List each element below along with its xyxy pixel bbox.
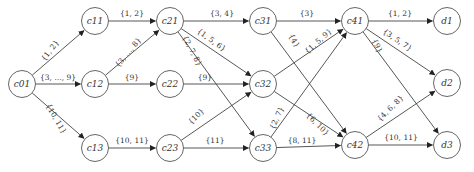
edge-label-c32-c42: {6, 10} bbox=[304, 111, 331, 138]
node-label: c11 bbox=[87, 16, 104, 26]
node-label: c41 bbox=[347, 16, 364, 26]
edge-label-c41-d3: {9} bbox=[370, 37, 384, 54]
edge-label-c42-d2: {4, 6, 8} bbox=[375, 93, 405, 123]
edge-label-c21-c33: {2, 7, 8} bbox=[180, 34, 204, 68]
edge-label-c11-c21: {1, 2} bbox=[120, 9, 144, 18]
node-c32: c32 bbox=[250, 71, 277, 98]
edge-label-c33-c41: {2, 7} bbox=[268, 105, 286, 130]
node-label: c13 bbox=[87, 143, 104, 153]
node-label: c21 bbox=[162, 16, 179, 26]
edge-label-c32-c41: {1, 5, 9} bbox=[303, 27, 334, 56]
edge-label-c31-c42: {4} bbox=[287, 32, 302, 49]
node-label: d2 bbox=[441, 78, 453, 88]
edge-label-c42-d3: {10, 11} bbox=[384, 133, 417, 142]
node-label: c33 bbox=[255, 143, 272, 153]
edge-label-c01-c13: {10, 11} bbox=[44, 102, 68, 135]
node-label: d3 bbox=[441, 140, 453, 150]
edge-c33-c42 bbox=[276, 145, 340, 147]
edge-label-c21-c31: {3, 4} bbox=[210, 9, 234, 18]
node-c22: c22 bbox=[157, 71, 184, 98]
edge-label-c12-c22: {9} bbox=[125, 73, 139, 82]
node-c31: c31 bbox=[250, 8, 277, 35]
node-c42: c42 bbox=[342, 132, 369, 159]
node-c01: c01 bbox=[9, 71, 36, 98]
node-label: c23 bbox=[162, 143, 179, 153]
node-c21: c21 bbox=[157, 8, 184, 35]
node-label: c42 bbox=[347, 140, 364, 150]
node-c41: c41 bbox=[342, 8, 369, 35]
node-label: c12 bbox=[87, 79, 104, 89]
node-label: c32 bbox=[255, 79, 272, 89]
node-c13: c13 bbox=[82, 135, 109, 162]
edge-label-c23-c33: {11} bbox=[205, 136, 224, 145]
directed-graph-diagram: {1, 2}{3, …, 9}{10, 11}{1, 2}{3, …, 8}{9… bbox=[0, 0, 474, 172]
node-d2: d2 bbox=[434, 70, 461, 97]
node-label: c22 bbox=[162, 79, 179, 89]
edge-label-c13-c23: {10, 11} bbox=[115, 136, 148, 145]
edge-label-c01-c12: {3, …, 9} bbox=[40, 73, 76, 82]
edge-label-c41-d1: {1, 2} bbox=[388, 9, 412, 18]
edge-label-c12-c21: {3, …, 8} bbox=[113, 36, 143, 69]
node-d3: d3 bbox=[434, 132, 461, 159]
edge-label-c33-c42: {8, 11} bbox=[288, 136, 317, 145]
edge-label-c01-c11: {1, 2} bbox=[39, 38, 61, 62]
node-c11: c11 bbox=[82, 8, 109, 35]
node-c33: c33 bbox=[250, 135, 277, 162]
node-label: c01 bbox=[14, 79, 31, 89]
edge-label-c23-c32: {10} bbox=[186, 106, 206, 126]
node-d1: d1 bbox=[434, 8, 461, 35]
edge-label-c31-c41: {3} bbox=[300, 9, 314, 18]
node-label: d1 bbox=[441, 16, 453, 26]
node-c12: c12 bbox=[82, 71, 109, 98]
edge-label-c22-c32: {9} bbox=[198, 73, 212, 82]
node-label: c31 bbox=[255, 16, 272, 26]
node-c23: c23 bbox=[157, 135, 184, 162]
edge-c01-c11 bbox=[32, 30, 84, 75]
